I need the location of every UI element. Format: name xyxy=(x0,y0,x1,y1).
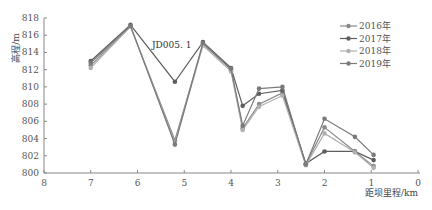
legend-item-2017: 2017年 xyxy=(340,33,391,44)
data-point xyxy=(128,23,133,28)
series-line xyxy=(91,25,374,164)
legend-marker-icon xyxy=(346,61,350,65)
annotation-jd005: JD005. 1 xyxy=(151,40,191,50)
data-point xyxy=(240,128,245,133)
x-tick-label: 7 xyxy=(88,178,94,188)
y-ticks: 800802804806808810812814816818 xyxy=(22,13,47,178)
series-line xyxy=(91,27,374,167)
elevation-line-chart: 800802804806808810812814816818 876543210… xyxy=(0,0,432,210)
data-point xyxy=(353,150,358,155)
legend-marker-icon xyxy=(346,49,350,53)
legend-label: 2017年 xyxy=(359,33,391,44)
y-tick-label: 802 xyxy=(22,151,39,161)
data-point xyxy=(371,158,376,163)
x-tick-label: 6 xyxy=(135,178,141,188)
legend-item-2016: 2016年 xyxy=(340,20,391,31)
series-line xyxy=(91,27,374,168)
y-tick-label: 818 xyxy=(22,13,39,23)
data-point xyxy=(371,153,376,158)
data-point xyxy=(353,135,358,140)
series-group xyxy=(88,23,375,171)
x-tick-label: 4 xyxy=(228,178,234,188)
legend-marker-icon xyxy=(346,24,350,28)
legend-item-2019: 2019年 xyxy=(340,58,391,69)
x-tick-label: 1 xyxy=(368,178,374,188)
series-2019 xyxy=(88,23,375,166)
data-point xyxy=(88,60,93,65)
data-point xyxy=(304,162,309,167)
y-tick-label: 804 xyxy=(22,134,39,144)
x-tick-label: 5 xyxy=(181,178,187,188)
data-point xyxy=(201,41,206,46)
data-point xyxy=(322,116,327,121)
legend-label: 2018年 xyxy=(359,45,391,56)
y-tick-label: 814 xyxy=(22,47,39,57)
data-point xyxy=(280,85,285,90)
legend-item-2018: 2018年 xyxy=(340,45,391,56)
x-tick-label: 0 xyxy=(415,178,421,188)
legend: 2016年2017年2018年2019年 xyxy=(340,20,391,69)
data-point xyxy=(322,125,327,130)
data-point xyxy=(257,86,262,91)
data-point xyxy=(322,149,327,154)
data-point xyxy=(88,66,93,71)
series-2016 xyxy=(88,24,375,168)
y-tick-label: 816 xyxy=(22,30,39,40)
x-tick-label: 8 xyxy=(41,178,47,188)
x-tick-label: 2 xyxy=(322,178,328,188)
legend-label: 2016年 xyxy=(359,20,391,31)
data-point xyxy=(173,142,178,147)
y-tick-label: 808 xyxy=(22,99,39,109)
series-2018 xyxy=(88,24,375,170)
y-tick-label: 812 xyxy=(22,65,39,75)
legend-marker-icon xyxy=(346,36,350,40)
y-tick-label: 810 xyxy=(22,82,39,92)
y-tick-label: 806 xyxy=(22,116,39,126)
data-point xyxy=(322,131,327,136)
data-point xyxy=(371,166,376,171)
series-2017 xyxy=(88,23,375,166)
y-tick-label: 800 xyxy=(22,168,39,178)
y-axis-title: 高程/m xyxy=(10,33,21,63)
legend-label: 2019年 xyxy=(359,58,391,69)
data-point xyxy=(240,104,245,109)
data-point xyxy=(229,67,234,72)
series-line xyxy=(91,26,374,165)
data-point xyxy=(240,123,245,128)
data-point xyxy=(257,104,262,109)
data-point xyxy=(173,79,178,84)
x-tick-label: 3 xyxy=(275,178,281,188)
x-axis-title: 距坝里程/km xyxy=(365,188,418,198)
